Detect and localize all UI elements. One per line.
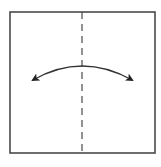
diagram-canvas	[0, 0, 161, 167]
paper-square	[10, 12, 155, 153]
origami-diagram: Valley fold in half vertically and unfol…	[0, 0, 161, 167]
